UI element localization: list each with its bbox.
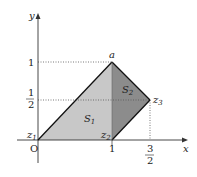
y-tick-half-den: 2 [28,99,34,110]
y-axis-arrow-icon [36,13,41,19]
x-tick-three-halves-num: 3 [147,143,153,154]
x-axis-label: x [183,143,189,154]
point-z3-label: z3 [152,94,163,107]
y-axis-label: y [28,10,35,21]
y-tick-1: 1 [28,57,34,68]
x-tick-three-halves-den: 2 [147,155,153,166]
complex-plane-diagram: y x O 1 1 2 1 3 2 a z1 z2 z3 S1 S2 [0,0,197,177]
x-axis-arrow-icon [182,138,188,143]
point-a-label: a [109,49,115,60]
region-s2 [112,62,150,140]
x-tick-1: 1 [109,143,115,154]
y-tick-half-num: 1 [28,87,34,98]
origin-label: O [30,143,38,154]
